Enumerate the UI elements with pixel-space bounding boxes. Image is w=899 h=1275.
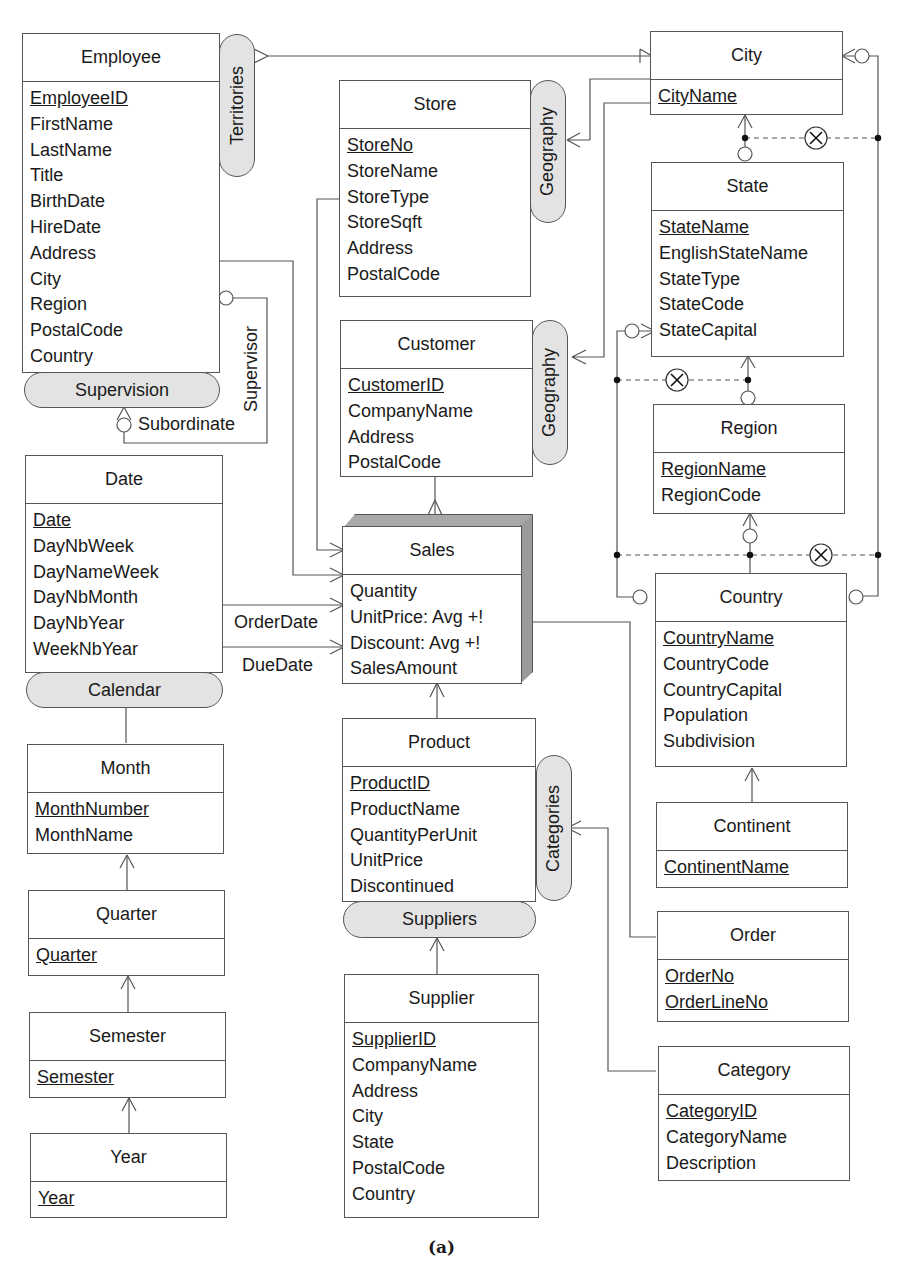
- attribute: UnitPrice: Avg +!: [350, 605, 521, 631]
- attribute: Address: [352, 1079, 538, 1105]
- attribute-list: ProductIDProductNameQuantityPerUnitUnitP…: [343, 767, 535, 904]
- hierarchy-geography-customer[interactable]: Geography: [532, 320, 568, 465]
- attribute-list: CityName: [651, 80, 842, 114]
- entity-title: Semester: [30, 1013, 225, 1061]
- attribute-list: OrderNoOrderLineNo: [658, 960, 848, 1020]
- attribute: ProductName: [350, 797, 535, 823]
- attribute: DayNbMonth: [33, 585, 222, 611]
- entity-title: Category: [659, 1047, 849, 1095]
- hierarchy-geography-store[interactable]: Geography: [530, 80, 566, 223]
- key-attribute: OrderNo: [665, 964, 848, 990]
- attribute: CountryCode: [663, 652, 846, 678]
- attribute-list: EmployeeIDFirstNameLastNameTitleBirthDat…: [23, 82, 219, 374]
- key-attribute: Year: [38, 1186, 226, 1212]
- attribute-list: StoreNoStoreNameStoreTypeStoreSqftAddres…: [340, 129, 530, 292]
- key-attribute: OrderLineNo: [665, 990, 848, 1016]
- role-label-supervisor: Supervisor: [241, 326, 262, 412]
- attribute: UnitPrice: [350, 848, 535, 874]
- key-attribute: RegionName: [661, 457, 844, 483]
- attribute: Population: [663, 703, 846, 729]
- multidimensional-schema-diagram: Employee EmployeeIDFirstNameLastNameTitl…: [0, 0, 899, 1275]
- entity-category[interactable]: Category CategoryIDCategoryNameDescripti…: [658, 1046, 850, 1181]
- entity-supplier[interactable]: Supplier SupplierIDCompanyNameAddressCit…: [344, 974, 539, 1218]
- hierarchy-suppliers[interactable]: Suppliers: [343, 901, 536, 938]
- role-label-subordinate: Subordinate: [138, 414, 235, 435]
- attribute: CompanyName: [352, 1053, 538, 1079]
- figure-caption: (a): [428, 1237, 455, 1257]
- attribute-list: SupplierIDCompanyNameAddressCityStatePos…: [345, 1023, 538, 1212]
- attribute-list: CustomerIDCompanyNameAddressPostalCode: [341, 369, 532, 480]
- entity-quarter[interactable]: Quarter Quarter: [28, 890, 225, 976]
- attribute: PostalCode: [30, 318, 219, 344]
- attribute-list: DateDayNbWeekDayNameWeekDayNbMonthDayNbY…: [26, 504, 222, 667]
- key-attribute: ProductID: [350, 771, 535, 797]
- attribute: MonthName: [35, 823, 223, 849]
- attribute: CategoryName: [666, 1125, 849, 1151]
- attribute-list: StateNameEnglishStateNameStateTypeStateC…: [652, 211, 843, 348]
- entity-title: State: [652, 163, 843, 211]
- entity-title: Order: [658, 912, 848, 960]
- attribute: StateType: [659, 267, 843, 293]
- key-attribute: MonthNumber: [35, 797, 223, 823]
- key-attribute: StoreNo: [347, 133, 530, 159]
- hierarchy-calendar[interactable]: Calendar: [26, 672, 223, 708]
- attribute: StoreSqft: [347, 210, 530, 236]
- attribute: DayNameWeek: [33, 560, 222, 586]
- attribute: Address: [347, 236, 530, 262]
- entity-semester[interactable]: Semester Semester: [29, 1012, 226, 1098]
- entity-continent[interactable]: Continent ContinentName: [656, 802, 848, 888]
- attribute-list: CategoryIDCategoryNameDescription: [659, 1095, 849, 1180]
- attribute: Address: [30, 241, 219, 267]
- key-attribute: EmployeeID: [30, 86, 219, 112]
- key-attribute: ContinentName: [664, 855, 847, 881]
- entity-title: Employee: [23, 34, 219, 82]
- attribute: State: [352, 1130, 538, 1156]
- attribute: Description: [666, 1151, 849, 1177]
- attribute: Country: [30, 344, 219, 370]
- attribute: Country: [352, 1182, 538, 1208]
- attribute: StateCapital: [659, 318, 843, 344]
- hierarchy-supervision[interactable]: Supervision: [24, 372, 220, 408]
- entity-customer[interactable]: Customer CustomerIDCompanyNameAddressPos…: [340, 320, 533, 477]
- attribute: WeekNbYear: [33, 637, 222, 663]
- entity-date[interactable]: Date DateDayNbWeekDayNameWeekDayNbMonthD…: [25, 455, 223, 673]
- attribute: CountryCapital: [663, 678, 846, 704]
- attribute: PostalCode: [352, 1156, 538, 1182]
- attribute-list: MonthNumberMonthName: [28, 793, 223, 853]
- hierarchy-territories[interactable]: Territories: [219, 34, 255, 177]
- attribute-list: Quarter: [29, 939, 224, 973]
- attribute-list: ContinentName: [657, 851, 847, 885]
- entity-month[interactable]: Month MonthNumberMonthName: [27, 744, 224, 854]
- entity-year[interactable]: Year Year: [30, 1133, 227, 1218]
- entity-title: Quarter: [29, 891, 224, 939]
- entity-country[interactable]: Country CountryNameCountryCodeCountryCap…: [655, 573, 847, 767]
- entity-state[interactable]: State StateNameEnglishStateNameStateType…: [651, 162, 844, 357]
- entity-order[interactable]: Order OrderNoOrderLineNo: [657, 911, 849, 1022]
- key-attribute: CountryName: [663, 626, 846, 652]
- attribute: Quantity: [350, 579, 521, 605]
- entity-title: Region: [654, 405, 844, 453]
- key-attribute: StateName: [659, 215, 843, 241]
- attribute: Subdivision: [663, 729, 846, 755]
- entity-city[interactable]: City CityName: [650, 31, 843, 115]
- attribute: Discontinued: [350, 874, 535, 900]
- entity-employee[interactable]: Employee EmployeeIDFirstNameLastNameTitl…: [22, 33, 220, 373]
- hierarchy-categories[interactable]: Categories: [536, 755, 572, 901]
- measure-list: QuantityUnitPrice: Avg +!Discount: Avg +…: [343, 575, 521, 686]
- attribute-list: Year: [31, 1182, 226, 1216]
- entity-title: Sales: [343, 527, 521, 575]
- attribute: DayNbWeek: [33, 534, 222, 560]
- entity-title: Year: [31, 1134, 226, 1182]
- key-attribute: CityName: [658, 84, 842, 110]
- entity-title: Supplier: [345, 975, 538, 1023]
- attribute: Address: [348, 425, 532, 451]
- attribute: Discount: Avg +!: [350, 631, 521, 657]
- entity-product[interactable]: Product ProductIDProductNameQuantityPerU…: [342, 718, 536, 902]
- entity-title: Country: [656, 574, 846, 622]
- entity-region[interactable]: Region RegionNameRegionCode: [653, 404, 845, 514]
- entity-sales[interactable]: Sales QuantityUnitPrice: Avg +!Discount:…: [342, 526, 522, 684]
- attribute: PostalCode: [348, 450, 532, 476]
- entity-title: Continent: [657, 803, 847, 851]
- entity-store[interactable]: Store StoreNoStoreNameStoreTypeStoreSqft…: [339, 80, 531, 297]
- attribute-list: Semester: [30, 1061, 225, 1095]
